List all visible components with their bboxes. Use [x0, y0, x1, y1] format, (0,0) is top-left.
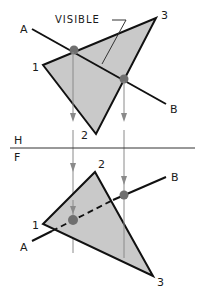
front-view-vertex-2: 2 [98, 158, 105, 171]
projector-arrow-2-lower-icon [121, 176, 127, 185]
front-view-vertex-3: 3 [157, 276, 164, 289]
top-view-vertex-2: 2 [81, 129, 88, 142]
front-view-pierce-point-1 [68, 215, 78, 225]
projector-arrow-1-lower-icon [70, 163, 76, 172]
visible-label: VISIBLE [55, 14, 100, 25]
top-view-plane [43, 18, 156, 134]
projector-arrow-1-upper-icon [70, 113, 76, 122]
front-view-pierce-point-2 [120, 191, 129, 200]
top-view-pierce-point-1 [70, 46, 79, 55]
front-view: A B 1 2 3 [20, 158, 179, 289]
front-view-vertex-1: 1 [32, 219, 39, 232]
top-view-vertex-3: 3 [161, 9, 168, 22]
diagram-canvas: VISIBLE A B 1 2 3 H F [0, 0, 203, 293]
projector-arrow-2-upper-icon [121, 113, 127, 122]
fold-label-f: F [14, 151, 20, 164]
orthographic-projection-diagram: VISIBLE A B 1 2 3 H F [0, 0, 203, 293]
front-view-plane [43, 172, 153, 276]
top-view-vertex-1: 1 [32, 61, 39, 74]
top-view-label-b: B [170, 103, 178, 116]
front-view-label-b: B [171, 171, 179, 184]
front-view-line-a-visible [32, 231, 52, 241]
top-view-label-a: A [20, 23, 28, 36]
fold-label-h: H [14, 134, 22, 147]
front-view-label-a: A [20, 241, 28, 254]
